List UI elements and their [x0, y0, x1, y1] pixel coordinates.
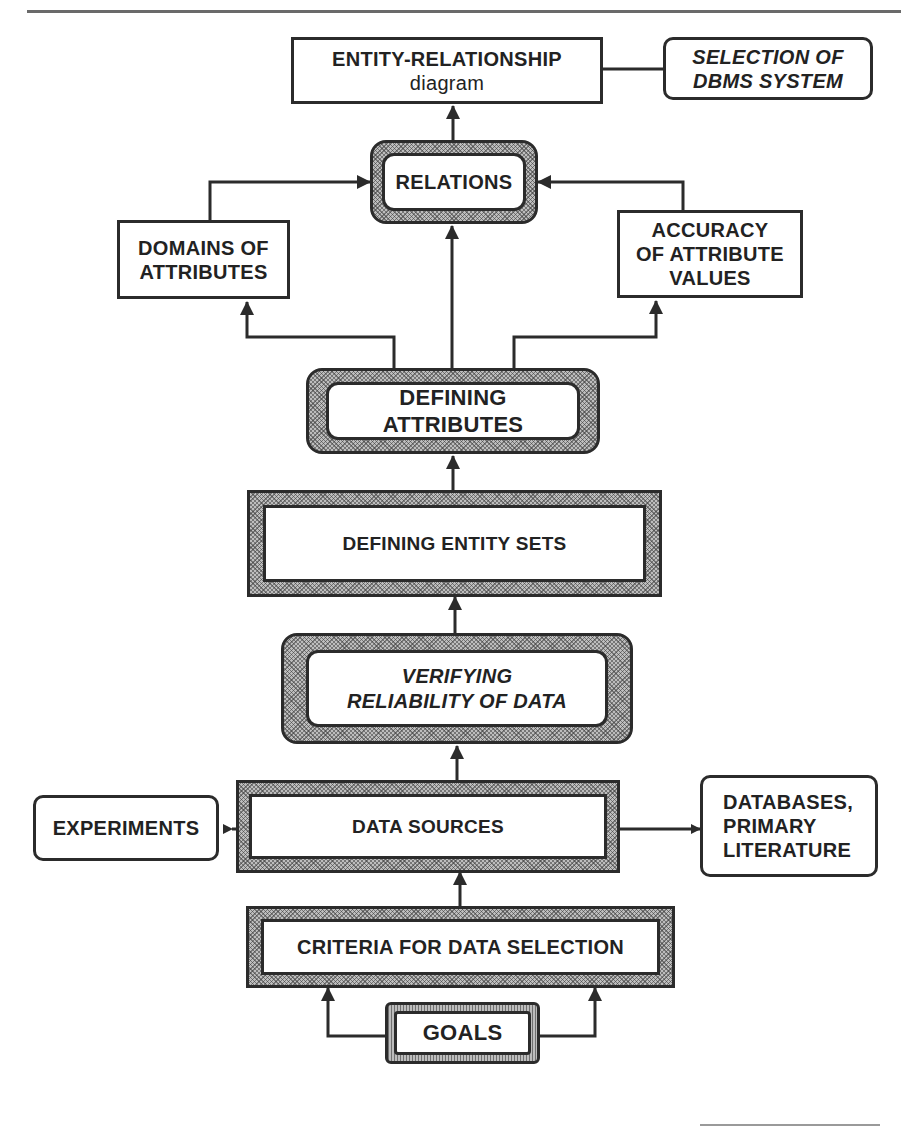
accuracy-line3: VALUES: [669, 266, 750, 290]
arrow-goals-to-criteria-left: [328, 988, 385, 1036]
er-diagram-subtitle: diagram: [410, 71, 484, 95]
defining-entity-sets-label: DEFINING ENTITY SETS: [342, 532, 566, 556]
node-criteria: CRITERIA FOR DATA SELECTION: [246, 906, 675, 988]
accuracy-line2: OF ATTRIBUTE: [636, 242, 784, 266]
criteria-label: CRITERIA FOR DATA SELECTION: [297, 935, 624, 960]
node-goals: GOALS: [385, 1002, 540, 1064]
arrow-goals-to-criteria-right: [540, 988, 595, 1036]
node-databases-literature: DATABASES, PRIMARY LITERATURE: [700, 775, 878, 877]
node-domains: DOMAINS OF ATTRIBUTES: [117, 220, 290, 299]
dbms-selection-line1: SELECTION OF: [692, 45, 843, 69]
experiments-label: EXPERIMENTS: [53, 816, 200, 840]
node-relations: RELATIONS: [370, 140, 538, 224]
accuracy-line1: ACCURACY: [652, 218, 769, 242]
er-diagram-title: ENTITY-RELATIONSHIP: [332, 47, 562, 71]
node-dbms-selection: SELECTION OF DBMS SYSTEM: [663, 37, 873, 100]
arrow-accuracy-to-relations: [538, 182, 683, 210]
node-defining-entity-sets: DEFINING ENTITY SETS: [247, 490, 662, 597]
node-verifying-reliability: VERIFYING RELIABILITY OF DATA: [281, 633, 633, 744]
goals-label: GOALS: [423, 1019, 503, 1047]
databases-line1: DATABASES,: [723, 790, 853, 814]
node-experiments: EXPERIMENTS: [33, 795, 219, 861]
arrow-attrs-to-accuracy: [514, 301, 656, 368]
databases-line3: LITERATURE: [723, 838, 851, 862]
defining-attributes-line1: DEFINING: [399, 384, 507, 412]
node-defining-attributes: DEFINING ATTRIBUTES: [306, 368, 600, 454]
arrow-domains-to-relations: [210, 182, 370, 220]
arrow-attrs-to-domains: [247, 302, 394, 368]
defining-attributes-line2: ATTRIBUTES: [383, 411, 524, 439]
domains-line1: DOMAINS OF: [138, 236, 269, 260]
databases-line2: PRIMARY: [723, 814, 817, 838]
data-sources-label: DATA SOURCES: [352, 815, 504, 839]
node-data-sources: DATA SOURCES: [236, 780, 620, 873]
dbms-selection-line2: DBMS SYSTEM: [693, 69, 843, 93]
relations-label: RELATIONS: [396, 170, 513, 195]
domains-line2: ATTRIBUTES: [139, 260, 267, 284]
node-er-diagram: ENTITY-RELATIONSHIP diagram: [291, 37, 603, 104]
verifying-line2: RELIABILITY OF DATA: [347, 689, 567, 714]
verifying-line1: VERIFYING: [402, 664, 513, 689]
node-accuracy: ACCURACY OF ATTRIBUTE VALUES: [617, 210, 803, 298]
bottom-rule: [700, 1124, 880, 1126]
